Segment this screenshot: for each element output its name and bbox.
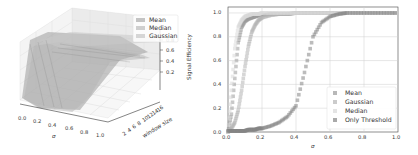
legend-marker-mean (333, 91, 337, 95)
y-tick: 1.0 (213, 9, 221, 15)
y-tick: 16 (156, 104, 165, 113)
x-tick: 0.2 (33, 118, 41, 124)
x-tick: 0.6 (324, 134, 332, 140)
data-point (238, 99, 242, 103)
data-point (236, 109, 240, 113)
y-tick: 8 (136, 120, 142, 127)
data-point (241, 81, 245, 85)
data-point (307, 53, 311, 57)
data-point (294, 104, 298, 108)
x-tick: 0.4 (290, 134, 299, 140)
data-point (231, 75, 235, 79)
data-point (306, 59, 310, 63)
x-tick: 0.8 (80, 129, 88, 135)
data-point (239, 95, 243, 99)
y-tick: 2 (121, 130, 127, 137)
x-tick: 0.8 (358, 134, 366, 140)
x-tick: 0.0 (18, 115, 26, 121)
legend-label: Gaussian (149, 32, 177, 39)
legend-label: Median (149, 24, 172, 31)
y-tick: 6 (131, 123, 137, 130)
data-point (231, 68, 235, 72)
y-tick: 0.0 (213, 129, 221, 135)
data-point (232, 54, 236, 58)
data-point (242, 77, 246, 81)
y-tick: 0.2 (213, 105, 221, 111)
data-point (232, 61, 236, 65)
legend-marker-gaussian (333, 100, 337, 104)
legend-swatch-median (136, 26, 145, 30)
data-point (308, 47, 312, 51)
data-point (227, 123, 231, 127)
data-point (238, 102, 242, 106)
scatter-svg: 0.0 0.2 0.4 0.6 0.8 1.0 0.0 0.2 0.4 0.6 … (210, 0, 418, 155)
legend-label: Only Threshold (345, 116, 392, 124)
data-point (245, 51, 249, 55)
x-axis-label: σ (311, 143, 315, 149)
data-point (237, 105, 241, 109)
y-tick: 0.8 (213, 33, 221, 39)
legend-label: Gaussian (345, 98, 373, 105)
data-point (242, 73, 246, 77)
data-point (300, 82, 304, 86)
data-point (230, 82, 234, 86)
data-point (228, 109, 232, 113)
data-point (246, 48, 250, 52)
data-point (228, 102, 232, 106)
x-tick: 0.4 (48, 122, 57, 128)
data-point (233, 47, 237, 51)
data-point (227, 116, 231, 120)
y-tick: 0.4 (213, 81, 222, 87)
surface-3d-chart: 0.0 0.2 0.4 0.6 0.8 1.0 σ 2 4 6 8 10 12 … (0, 0, 210, 155)
data-point (234, 43, 238, 47)
data-point (229, 95, 233, 99)
legend: Mean Gaussian Median Only Threshold (327, 87, 396, 129)
data-point (301, 76, 305, 80)
data-point (298, 87, 302, 91)
data-point (303, 71, 307, 75)
data-point (243, 65, 247, 69)
x-tick: 0.0 (222, 134, 230, 140)
legend-swatch-gaussian (136, 34, 145, 38)
x-tick: 1.0 (96, 132, 104, 138)
data-point (244, 58, 248, 62)
legend-label: Mean (149, 16, 166, 23)
data-point (297, 93, 301, 97)
x-tick: 1.0 (392, 134, 400, 140)
scatter-chart: 0.0 0.2 0.4 0.6 0.8 1.0 0.0 0.2 0.4 0.6 … (210, 0, 418, 155)
data-point (393, 11, 397, 15)
data-point (310, 41, 314, 45)
data-point (236, 29, 240, 33)
data-point (243, 69, 247, 73)
data-point (235, 33, 239, 37)
data-point (240, 85, 244, 89)
x-axis-label: σ (52, 133, 56, 139)
surface-3d-svg: 0.0 0.2 0.4 0.6 0.8 1.0 σ 2 4 6 8 10 12 … (0, 0, 210, 155)
legend-marker-only-threshold (333, 118, 337, 122)
data-point (240, 89, 244, 93)
legend-marker-median (333, 109, 337, 113)
data-point (239, 92, 243, 96)
y-tick: 0.6 (213, 57, 221, 63)
data-point (230, 89, 234, 93)
data-point (245, 55, 249, 59)
z-tick: 0.6 (166, 47, 174, 53)
x-tick: 0.2 (256, 134, 264, 140)
legend: Mean Median Gaussian (133, 15, 178, 42)
y-ticks: 0.0 0.2 0.4 0.6 0.8 1.0 (213, 9, 222, 135)
z-axis-label: Signal Efficiency (186, 33, 193, 80)
x-tick: 0.6 (65, 125, 73, 131)
data-point (235, 36, 239, 40)
z-tick: 0.4 (166, 58, 175, 64)
x-ticks: 0.0 0.2 0.4 0.6 0.8 1.0 (222, 134, 400, 140)
z-tick: 0.2 (166, 69, 174, 75)
legend-label: Median (345, 107, 368, 114)
legend-label: Mean (345, 89, 362, 96)
data-point (234, 40, 238, 44)
data-point (304, 65, 308, 69)
legend-swatch-mean (136, 18, 145, 22)
data-point (244, 61, 248, 65)
data-point (296, 98, 300, 102)
